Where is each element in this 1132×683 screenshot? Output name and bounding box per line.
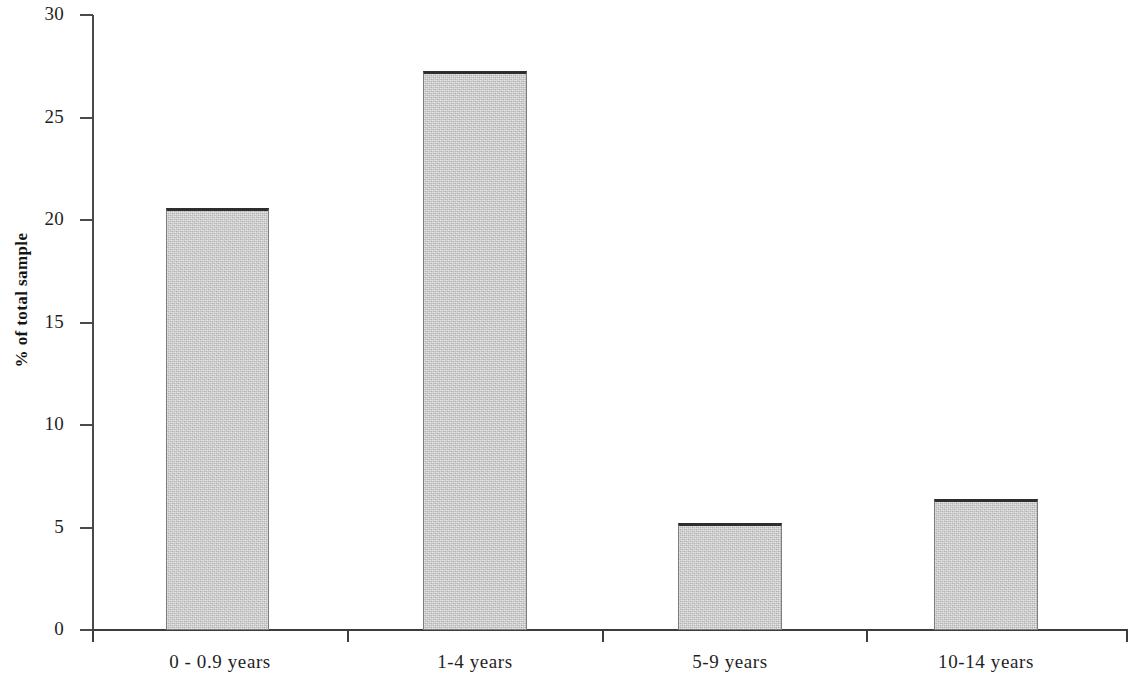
y-tick-5 [80,527,93,529]
y-tick-30 [80,14,93,16]
bar-1-4-years [423,71,527,630]
x-tick-2 [602,631,604,642]
x-tick-1 [347,631,349,642]
x-label-5-9-years: 5-9 years [647,651,813,673]
y-tick-label-5: 5 [24,516,64,538]
x-label-0-0-9-years: 0 - 0.9 years [130,651,310,673]
bar-5-9-years [678,523,782,630]
y-tick-label-15: 15 [24,311,64,333]
y-tick-label-10: 10 [24,413,64,435]
y-tick-10 [80,424,93,426]
bar-0-0-9-years [166,208,269,630]
y-tick-20 [80,219,93,221]
x-label-1-4-years: 1-4 years [392,651,558,673]
y-tick-label-20: 20 [24,208,64,230]
x-tick-end [1126,631,1128,642]
y-tick-25 [80,117,93,119]
bar-10-14-years [934,499,1038,630]
y-tick-label-30: 30 [24,3,64,25]
x-label-10-14-years: 10-14 years [903,651,1069,673]
x-tick-3 [866,631,868,642]
y-tick-label-25: 25 [24,106,64,128]
bar-chart: % of total sample 30 25 20 15 10 5 0 0 -… [0,0,1132,683]
x-tick-start [92,631,94,642]
y-tick-label-0: 0 [24,618,64,640]
y-tick-15 [80,322,93,324]
